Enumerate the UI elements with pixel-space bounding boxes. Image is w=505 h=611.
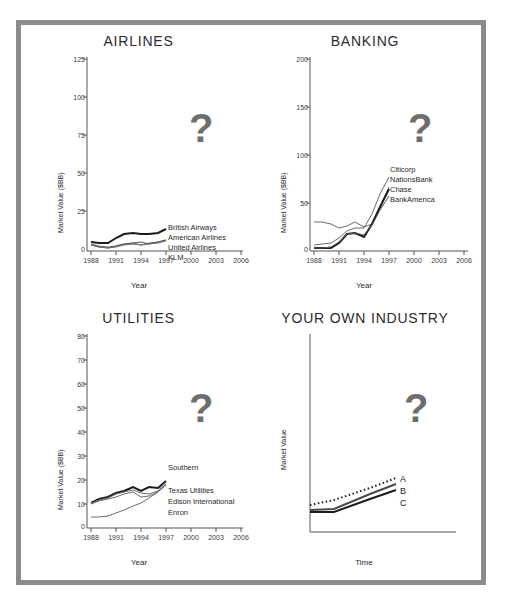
x-axis-label-airlines: Year — [49, 281, 229, 290]
panel-banking: BANKING ? Market Value ($BB) Year 200 15… — [256, 33, 474, 298]
legend-item: Edison International — [168, 496, 234, 507]
legend-item: United Airlines — [168, 243, 226, 253]
legend-item: KLM — [168, 253, 226, 263]
x-axis-label-your-own-industry: Time — [274, 558, 454, 567]
legend-utilities: Southern Texas Utilities Edison Internat… — [168, 462, 234, 518]
figure-frame: AIRLINES ? Market Value ($BB) Year 125 1… — [16, 20, 486, 585]
plot-your-own-industry — [256, 310, 474, 550]
panel-your-own-industry: YOUR OWN INDUSTRY ? Market Value Time A … — [256, 310, 474, 575]
figure-page: AIRLINES ? Market Value ($BB) Year 125 1… — [0, 0, 505, 611]
panel-airlines: AIRLINES ? Market Value ($BB) Year 125 1… — [31, 33, 246, 298]
legend-item: American Airlines — [168, 233, 226, 243]
legend-banking: Citicorp NationsBank Chase BankAmerica — [390, 165, 435, 205]
legend-airlines: British Airways American Airlines United… — [168, 223, 226, 263]
legend-item: A — [400, 473, 407, 485]
legend-item: British Airways — [168, 223, 226, 233]
legend-item: B — [400, 485, 407, 497]
panel-utilities: UTILITIES ? Market Value ($BB) Year 80 7… — [31, 310, 246, 575]
legend-item: Southern — [168, 462, 234, 473]
legend-item: Chase — [390, 185, 435, 195]
legend-item: NationsBank — [390, 175, 435, 185]
x-axis-label-banking: Year — [274, 281, 454, 290]
plot-banking — [256, 33, 474, 273]
x-axis-label-utilities: Year — [49, 558, 229, 567]
legend-item: C — [400, 497, 407, 509]
legend-item: Citicorp — [390, 165, 435, 175]
legend-item: BankAmerica — [390, 195, 435, 205]
legend-item: Enron — [168, 507, 234, 518]
legend-item: Texas Utilities — [168, 485, 234, 496]
legend-your-own-industry: A B C — [400, 473, 407, 509]
